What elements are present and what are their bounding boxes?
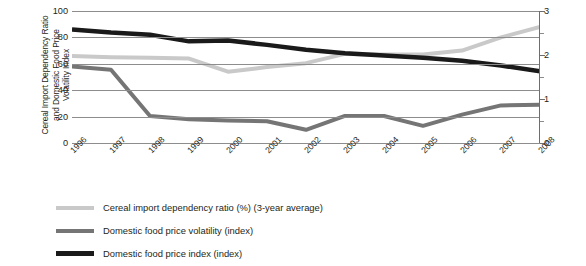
- series-lines: [72, 11, 540, 143]
- legend-swatch: [56, 229, 94, 233]
- y-tick-label-right-1: 1: [544, 94, 549, 104]
- x-axis-ticks: 1996199719981999200020012002200320042005…: [72, 146, 540, 188]
- gridline-100: [72, 11, 540, 12]
- series-line: [72, 66, 540, 129]
- legend-swatch: [56, 206, 94, 210]
- gridline-60: [72, 64, 540, 65]
- y-tick-label-left-100: 100: [53, 6, 68, 16]
- gridline-40: [72, 90, 540, 91]
- chart-legend: Cereal import dependency ratio (%) (3-ye…: [56, 196, 536, 265]
- y-axis-right-ticks: 0123: [544, 11, 568, 143]
- y-axis-left-ticks: 020406080100: [44, 11, 68, 143]
- legend-label: Domestic food price volatility (index): [103, 225, 253, 236]
- legend-swatch: [56, 251, 94, 256]
- chart-container: Cereal Import Dependency Ratio and Domes…: [0, 0, 586, 266]
- y-axis-title-container: Cereal Import Dependency Ratio and Domes…: [0, 0, 44, 152]
- y-tick-label-right-2: 2: [544, 50, 549, 60]
- legend-item[interactable]: Domestic food price volatility (index): [56, 219, 536, 242]
- legend-label: Domestic food price index (index): [103, 248, 242, 259]
- y-tick-label-left-80: 80: [58, 32, 68, 42]
- legend-item[interactable]: Cereal import dependency ratio (%) (3-ye…: [56, 196, 536, 219]
- legend-label: Cereal import dependency ratio (%) (3-ye…: [103, 202, 323, 213]
- gridline-20: [72, 117, 540, 118]
- legend-item[interactable]: Domestic food price index (index): [56, 242, 536, 265]
- gridline-80: [72, 37, 540, 38]
- y-tick-label-right-3: 3: [544, 6, 549, 16]
- plot-area: [72, 11, 540, 143]
- y-tick-label-left-0: 0: [63, 138, 68, 148]
- y-tick-label-left-40: 40: [58, 85, 68, 95]
- y-tick-label-left-20: 20: [58, 112, 68, 122]
- y-tick-label-left-60: 60: [58, 59, 68, 69]
